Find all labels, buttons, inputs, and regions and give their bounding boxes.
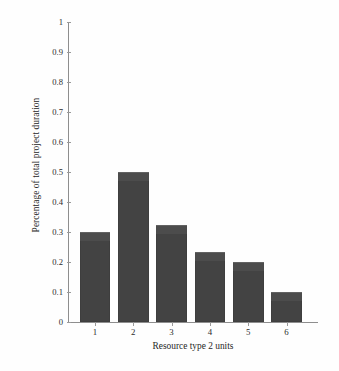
y-tick-mark [67,172,71,173]
y-tick-mark [67,202,71,203]
bar-chart-figure: Percentage of total project duration 00.… [0,0,339,371]
y-tick-mark [67,112,71,113]
y-tick-mark [67,322,71,323]
x-axis-title: Resource type 2 units [68,341,318,351]
y-tick-mark [67,262,71,263]
y-axis-title: Percentage of total project duration [31,50,41,280]
x-tick-mark [287,322,288,326]
bar-top-band [271,292,302,301]
bar [118,172,149,322]
bar-top-edge [118,172,149,173]
y-tick-label: 0.2 [52,257,63,267]
y-tick-label: 0.1 [52,287,63,297]
bar-top-edge [271,292,302,293]
bar-top-edge [195,252,226,253]
x-tick-label: 5 [246,327,250,337]
y-tick-label: 0.5 [52,167,63,177]
x-tick-mark [133,322,134,326]
y-tick-label: 0.6 [52,137,63,147]
bar [80,232,111,322]
x-tick-mark [248,322,249,326]
bar-top-edge [156,225,187,226]
bar-top-band [118,172,149,181]
bar-top-band [195,252,226,261]
y-tick-mark [67,52,71,53]
bar-top-band [80,232,111,241]
x-tick-mark [95,322,96,326]
y-tick-label: 0 [59,317,63,327]
y-tick-mark [67,142,71,143]
y-tick-mark [67,82,71,83]
bar-top-edge [80,232,111,233]
plot-area: 00.10.20.30.40.50.60.70.80.91 123456 [68,22,318,322]
bar [271,292,302,322]
x-tick-label: 6 [284,327,288,337]
bar [195,252,226,323]
y-tick-label: 0.4 [52,197,63,207]
bar-top-band [233,262,264,271]
x-tick-mark [172,322,173,326]
y-tick-label: 0.8 [52,77,63,87]
y-tick-mark [67,292,71,293]
y-tick-mark [67,22,71,23]
bar [233,262,264,322]
x-tick-label: 4 [208,327,212,337]
y-tick-label: 0.9 [52,47,63,57]
y-tick-mark [67,232,71,233]
x-tick-label: 1 [93,327,97,337]
y-tick-label: 0.7 [52,107,63,117]
x-tick-label: 2 [131,327,135,337]
bar [156,225,187,323]
y-tick-label: 1 [59,17,63,27]
bar-top-edge [233,262,264,263]
x-axis-line [68,322,318,323]
bar-top-band [156,225,187,234]
y-tick-label: 0.3 [52,227,63,237]
x-tick-mark [210,322,211,326]
x-tick-label: 3 [169,327,173,337]
